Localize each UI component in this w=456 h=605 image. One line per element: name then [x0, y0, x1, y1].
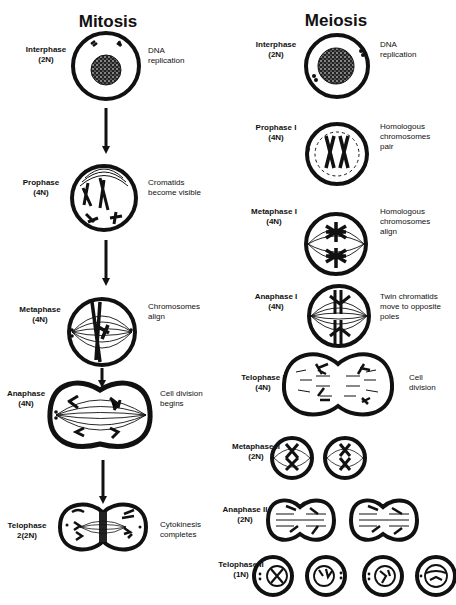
- mitosis-anaphase-cell: [50, 383, 150, 446]
- meiosis-stage-label: Metaphase I(4N): [239, 207, 309, 227]
- meiosis-stage-label: Telophase II(1N): [206, 560, 276, 580]
- meiosis-interphase-cell: [306, 35, 368, 97]
- meiosis-stage-desc: Homologouschromosomesalign: [380, 207, 456, 237]
- meiosis-stage-label: Anaphase I(4N): [241, 292, 311, 312]
- mitosis-telophase-cell: [60, 505, 146, 550]
- meiosis-anaphase-2-cells: [268, 500, 417, 539]
- meiosis-stage-desc: Homologouschromosomespair: [380, 122, 456, 152]
- meiosis-stage-label: Interphase(2N): [241, 40, 311, 60]
- mitosis-stage-label: Prophase(4N): [6, 178, 76, 198]
- meiosis-stage-label: Metaphase II(2N): [221, 442, 291, 462]
- meiosis-stage-desc: Twin chromatidsmove to oppositepoles: [380, 292, 456, 322]
- meiosis-stage-desc: DNAreplication: [380, 40, 456, 60]
- meiosis-anaphase-1-cell: [309, 286, 369, 346]
- meiosis-stage-label: Anaphase II(2N): [210, 505, 280, 525]
- mitosis-stage-desc: Chromosomesalign: [148, 302, 238, 322]
- meiosis-stage-desc: Celldivision: [409, 373, 456, 393]
- mitosis-metaphase-cell: [69, 299, 135, 365]
- mitosis-prophase-cell: [72, 166, 136, 230]
- mitosis-title: Mitosis: [48, 12, 168, 32]
- meiosis-metaphase-1-cell: [306, 214, 366, 274]
- meiosis-title: Meiosis: [276, 11, 396, 31]
- mitosis-stage-label: Interphase(2N): [11, 45, 81, 65]
- meiosis-prophase-1-cell: [307, 124, 367, 184]
- meiosis-stage-label: Prophase I(4N): [241, 123, 311, 143]
- meiosis-stage-label: Telophase I(4N): [228, 373, 298, 393]
- meiosis-telophase-1-cell: [284, 354, 392, 414]
- mitosis-stage-label: Anaphase(4N): [0, 389, 61, 409]
- mitosis-stage-desc: DNAreplication: [148, 46, 238, 66]
- meiosis-telophase-2-cells: [254, 557, 455, 595]
- mitosis-stage-label: Telophase2(2N): [0, 521, 62, 541]
- mitosis-interphase-cell: [73, 33, 139, 99]
- mitosis-stage-desc: Cromatidsbecome visible: [148, 178, 238, 198]
- mitosis-stage-label: Metaphase(4N): [5, 305, 75, 325]
